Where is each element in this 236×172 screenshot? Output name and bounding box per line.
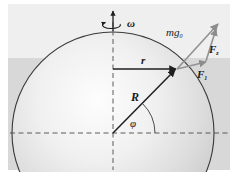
R-label: R [130,90,139,104]
physics-diagram-figure: ω r R φ mg0 Fz F1 [0,0,236,172]
phi-label: φ [130,117,136,129]
omega-label: ω [127,17,135,29]
diagram-canvas: ω r R φ mg0 Fz F1 [0,0,236,172]
r-label: r [141,54,146,66]
